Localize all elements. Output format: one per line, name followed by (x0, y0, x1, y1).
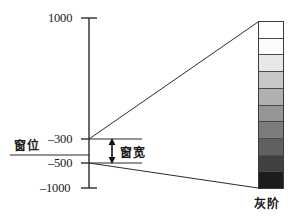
mapping-line-lower (89, 163, 258, 188)
grayscale-step-3 (259, 55, 283, 72)
axis-label-1000: 1000 (48, 12, 72, 25)
grayscale-ramp (258, 21, 284, 189)
grayscale-step-7 (259, 122, 283, 139)
grayscale-step-5 (259, 89, 283, 106)
grayscale-step-8 (259, 139, 283, 156)
grayscale-step-9 (259, 156, 283, 173)
figure-canvas: 1000 –300 –500 –1000 窗位 窗宽 灰阶 (0, 0, 293, 216)
window-level-label: 窗位 (14, 140, 39, 152)
grayscale-step-4 (259, 72, 283, 89)
grayscale-step-6 (259, 106, 283, 123)
grayscale-label: 灰阶 (254, 198, 279, 210)
axis-label-minus-500: –500 (48, 157, 72, 170)
grayscale-step-1 (259, 22, 283, 39)
grayscale-step-10 (259, 172, 283, 188)
window-width-label: 窗宽 (120, 147, 145, 159)
mapping-line-upper (89, 22, 258, 139)
grayscale-step-2 (259, 39, 283, 56)
axis-label-minus-1000: –1000 (40, 182, 70, 195)
axis-label-minus-300: –300 (48, 133, 72, 146)
